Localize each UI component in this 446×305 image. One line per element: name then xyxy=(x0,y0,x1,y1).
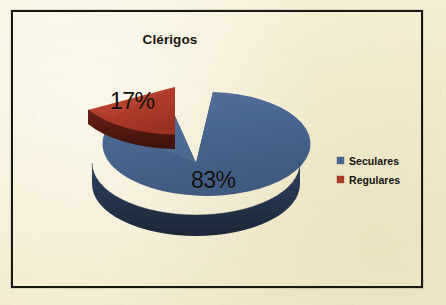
pie-label-seculares: 83% xyxy=(191,167,236,194)
chart-title: Clérigos xyxy=(0,32,340,47)
legend-swatch-seculares xyxy=(337,157,344,164)
chart-legend: Seculares Regulares xyxy=(337,152,417,190)
legend-item-seculares[interactable]: Seculares xyxy=(337,152,417,169)
chart-frame-border xyxy=(11,10,423,288)
legend-label-regulares: Regulares xyxy=(349,174,400,186)
legend-swatch-regulares xyxy=(337,176,344,183)
legend-label-seculares: Seculares xyxy=(349,155,399,167)
scanned-page: Clérigos xyxy=(0,0,446,305)
legend-item-regulares[interactable]: Regulares xyxy=(337,171,417,188)
pie-label-regulares: 17% xyxy=(110,88,155,115)
